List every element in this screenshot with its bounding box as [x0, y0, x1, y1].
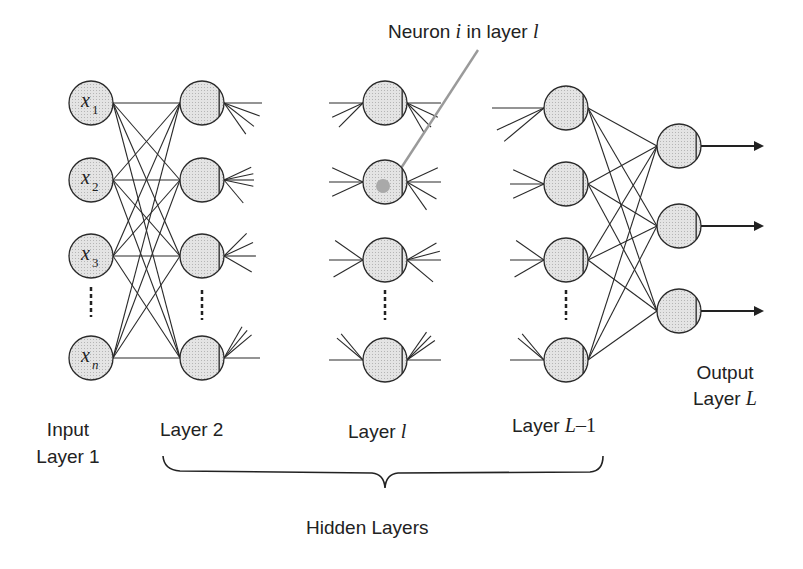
hidden-neuron [544, 338, 588, 382]
svg-text:n: n [92, 357, 99, 372]
output-neuron [657, 289, 701, 333]
hidden-neuron [544, 86, 588, 130]
output-neuron [657, 204, 701, 248]
layer-2-label: Layer 2 [160, 418, 223, 441]
svg-text:x: x [80, 166, 90, 188]
svg-text:1: 1 [92, 102, 99, 117]
input-neuron: x3 [69, 234, 113, 278]
layer-L-minus-1-label: Layer L–1 [512, 414, 596, 437]
svg-text:2: 2 [92, 179, 99, 194]
output-layer-label: Output Layer L [680, 361, 770, 410]
layer-l-label: Layer l [348, 420, 406, 443]
hidden-neuron [363, 238, 407, 282]
neurons: x1x2x3xn [69, 81, 701, 382]
neural-network-diagram: x1x2x3xn [0, 0, 803, 569]
input-neuron: xn [69, 336, 113, 380]
hidden-neuron [180, 234, 224, 278]
svg-text:3: 3 [92, 255, 99, 270]
hidden-layers-brace [163, 456, 603, 488]
partial-connections [224, 103, 544, 360]
svg-text:x: x [80, 242, 90, 264]
input-neuron: x2 [69, 158, 113, 202]
input-neuron: x1 [69, 81, 113, 125]
hidden-neuron [363, 81, 407, 125]
hidden-layers-label: Hidden Layers [306, 516, 429, 539]
neuron-pointer-line [392, 50, 478, 182]
neuron-annotation-label: Neuron i in layer l [388, 20, 539, 43]
svg-text:x: x [80, 89, 90, 111]
hidden-neuron [180, 158, 224, 202]
hidden-neuron [544, 238, 588, 282]
output-arrows [701, 146, 762, 311]
connections [113, 103, 657, 360]
svg-text:x: x [80, 344, 90, 366]
highlighted-neuron-core [376, 179, 390, 193]
hidden-neuron [363, 338, 407, 382]
hidden-neuron [544, 162, 588, 206]
hidden-neuron [180, 336, 224, 380]
hidden-neuron [180, 81, 224, 125]
hidden-neuron [363, 160, 407, 204]
output-neuron [657, 124, 701, 168]
layer-index-var: l [533, 20, 539, 42]
input-layer-label: Input Layer 1 [22, 418, 114, 468]
